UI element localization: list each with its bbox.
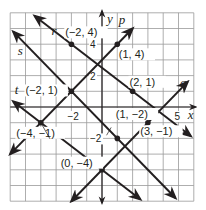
tick-label-x: 5 — [175, 111, 181, 122]
point-label: (3, −1) — [140, 125, 172, 137]
point — [69, 41, 75, 47]
tick-label-x: −2 — [67, 111, 79, 122]
x-axis-label: x — [187, 107, 194, 122]
line-label-r: r — [52, 23, 58, 38]
point-label: (2, 1) — [130, 76, 156, 88]
point — [130, 89, 136, 95]
point — [115, 41, 121, 47]
y-axis-label: y — [105, 11, 113, 26]
lines — [10, 16, 191, 201]
point-label: (1, 4) — [119, 48, 145, 60]
line-label-s: s — [18, 43, 23, 58]
point-label: (−2, 1) — [26, 84, 58, 96]
axes: xy−2542−2 — [10, 11, 196, 203]
line-label-p: p — [118, 12, 126, 27]
point — [115, 136, 121, 142]
coordinate-plane: xy−2542−2 (−2, 4)(1, 4)(2, 1)(−2, 1)(−4,… — [0, 0, 206, 210]
line-label-q: q — [180, 75, 187, 90]
tick-label-y: 4 — [90, 39, 96, 50]
point-label: (−2, 4) — [65, 26, 97, 38]
line-q — [71, 82, 187, 201]
point — [69, 89, 75, 95]
tick-label-y: −2 — [90, 133, 102, 144]
line-label-t: t — [15, 82, 19, 97]
point-label: (1, −2) — [116, 108, 148, 120]
point-label: (0, −4) — [61, 157, 93, 169]
